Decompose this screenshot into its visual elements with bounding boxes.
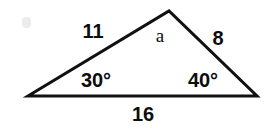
angle-label-right: 40° <box>188 70 218 90</box>
side-label-left: 11 <box>82 21 103 41</box>
side-label-bottom: 16 <box>132 104 154 124</box>
side-label-right: 8 <box>212 28 223 48</box>
angle-label-left: 30° <box>81 70 111 90</box>
angle-label-apex-unknown: a <box>156 26 164 45</box>
triangle-outline <box>28 11 257 96</box>
triangle-figure: 11 a 8 30° 40° 16 <box>0 0 272 133</box>
